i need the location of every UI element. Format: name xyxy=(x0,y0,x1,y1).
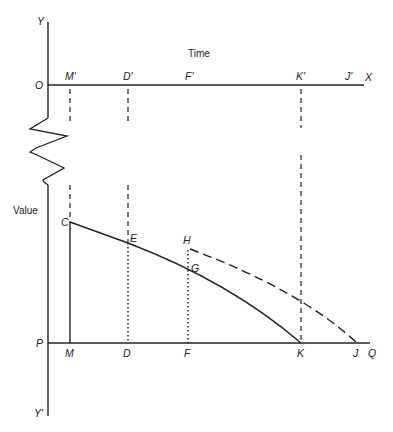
label-x: X xyxy=(364,71,373,83)
label-yprime: Y' xyxy=(34,407,44,419)
label-y: Y xyxy=(37,15,45,27)
label-jprime: J' xyxy=(344,70,353,82)
axis-title-value: Value xyxy=(13,205,38,216)
label-f: F xyxy=(184,347,191,359)
label-j: J xyxy=(352,347,359,359)
dashed-curve-hj xyxy=(190,249,357,343)
label-m: M xyxy=(65,347,74,359)
label-c: C xyxy=(61,216,69,228)
value-time-diagram: Y Time O M' D' F' K' J' X Value C E H G … xyxy=(0,0,393,432)
label-d: D xyxy=(123,347,131,359)
label-h: H xyxy=(183,234,191,246)
label-k: K xyxy=(297,347,305,359)
label-q: Q xyxy=(368,347,376,359)
label-kprime: K' xyxy=(296,70,306,82)
label-p: P xyxy=(36,337,43,349)
axis-break-zigzag xyxy=(30,118,67,185)
axis-title-time: Time xyxy=(188,48,210,59)
label-dprime: D' xyxy=(123,70,134,82)
label-e: E xyxy=(130,232,138,244)
label-mprime: M' xyxy=(65,70,77,82)
label-g: G xyxy=(191,262,199,274)
label-fprime: F' xyxy=(185,70,194,82)
label-o: O xyxy=(35,79,43,91)
